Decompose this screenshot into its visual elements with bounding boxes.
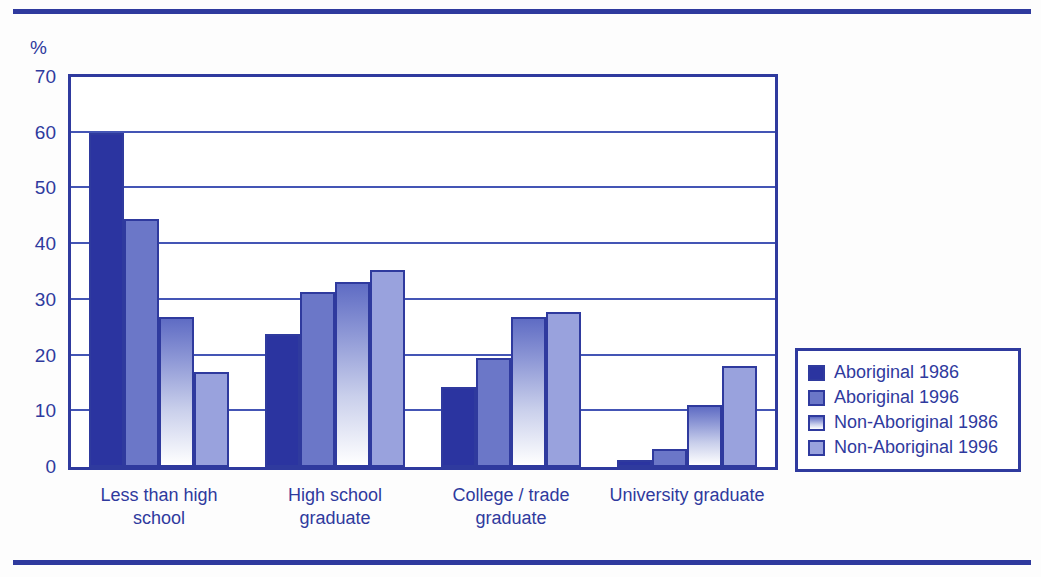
legend-item-label: Aboriginal 1996	[834, 387, 959, 408]
legend-item-label: Aboriginal 1986	[834, 362, 959, 383]
legend-item[interactable]: Non-Aboriginal 1986	[808, 410, 1010, 435]
bar-3-aboriginal-1996	[476, 358, 511, 467]
x-axis-category-label: Less than highschool	[59, 484, 259, 530]
x-axis-category-line: school	[59, 507, 259, 530]
bar-1-non-aboriginal-1996	[194, 372, 229, 467]
bar-1-aboriginal-1986	[89, 133, 124, 467]
y-axis-tick-label: 40	[0, 233, 56, 255]
y-axis-tick-label: 60	[0, 122, 56, 144]
legend-item-label: Non-Aboriginal 1996	[834, 437, 998, 458]
y-axis-unit-label: %	[30, 37, 47, 59]
bar-4-non-aboriginal-1986	[687, 405, 722, 467]
bar-1-aboriginal-1996	[124, 219, 159, 467]
gridline	[71, 131, 775, 133]
gridline	[71, 186, 775, 188]
legend-item-label: Non-Aboriginal 1986	[834, 412, 998, 433]
legend-item[interactable]: Aboriginal 1996	[808, 385, 1010, 410]
x-axis-category-line: College / trade	[411, 484, 611, 507]
legend-item[interactable]: Aboriginal 1986	[808, 360, 1010, 385]
bar-2-aboriginal-1996	[300, 292, 335, 468]
x-axis-category-line: graduate	[411, 507, 611, 530]
y-axis-tick-label: 10	[0, 400, 56, 422]
x-axis-category-label: High schoolgraduate	[235, 484, 435, 530]
gridline	[71, 298, 775, 300]
bar-2-non-aboriginal-1986	[335, 282, 370, 467]
x-axis-category-line: graduate	[235, 507, 435, 530]
y-axis-tick-label: 30	[0, 289, 56, 311]
legend-swatch-non-aboriginal-1996	[808, 440, 825, 456]
legend-item[interactable]: Non-Aboriginal 1996	[808, 435, 1010, 460]
bar-4-aboriginal-1986	[617, 460, 652, 467]
bar-chart-figure: % 010203040506070 Less than highschoolHi…	[0, 0, 1041, 577]
plot-inner	[71, 77, 775, 467]
bar-4-aboriginal-1996	[652, 449, 687, 467]
y-axis-tick-label: 50	[0, 177, 56, 199]
bar-3-aboriginal-1986	[441, 387, 476, 467]
y-axis-tick-label: 0	[0, 456, 56, 478]
legend-swatch-non-aboriginal-1986	[808, 415, 825, 431]
legend-swatch-aboriginal-1996	[808, 390, 825, 406]
chart-legend: Aboriginal 1986Aboriginal 1996Non-Aborig…	[795, 348, 1021, 472]
x-axis-category-line: High school	[235, 484, 435, 507]
x-axis-category-label: University graduate	[587, 484, 787, 507]
bar-3-non-aboriginal-1996	[546, 312, 581, 467]
plot-area	[68, 74, 778, 470]
bar-2-non-aboriginal-1996	[370, 270, 405, 467]
y-axis-tick-label: 70	[0, 66, 56, 88]
gridline	[71, 242, 775, 244]
bar-2-aboriginal-1986	[265, 334, 300, 467]
x-axis-category-label: College / tradegraduate	[411, 484, 611, 530]
bar-4-non-aboriginal-1996	[722, 366, 757, 467]
bar-3-non-aboriginal-1986	[511, 317, 546, 467]
x-axis-category-line: Less than high	[59, 484, 259, 507]
x-axis-category-line: University graduate	[587, 484, 787, 507]
y-axis-tick-label: 20	[0, 345, 56, 367]
legend-swatch-aboriginal-1986	[808, 365, 825, 381]
bar-1-non-aboriginal-1986	[159, 317, 194, 467]
